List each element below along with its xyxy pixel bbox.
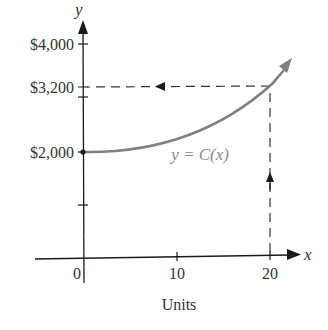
- x-tick-label-20: 20: [262, 265, 278, 282]
- dashed-guides: [87, 82, 274, 252]
- y-tick-label-3200: $3,200: [30, 79, 74, 96]
- x-axis: [35, 249, 301, 261]
- cost-curve: [83, 70, 284, 152]
- x-tick-label-0: 0: [73, 265, 81, 282]
- x-tick-label-10: 10: [169, 265, 185, 282]
- curve-label: y = C(x): [169, 145, 229, 164]
- left-arrow-icon: [155, 82, 165, 91]
- y-tick-label-4000: $4,000: [30, 36, 74, 53]
- curve-start-point: [80, 149, 85, 154]
- cost-chart: y x $4,000 $3,200 $2,000 0 10 20 Units y…: [0, 0, 328, 330]
- curve-arrow-icon: [279, 58, 292, 73]
- horizontal-dashed-guide: [87, 86, 270, 87]
- y-axis-arrow-icon: [78, 20, 88, 34]
- x-axis-label: x: [303, 245, 312, 264]
- x-axis-arrow-icon: [287, 249, 301, 260]
- y-axis-label: y: [73, 0, 83, 19]
- x-axis-title: Units: [162, 296, 197, 313]
- y-tick-label-2000: $2,000: [30, 144, 74, 161]
